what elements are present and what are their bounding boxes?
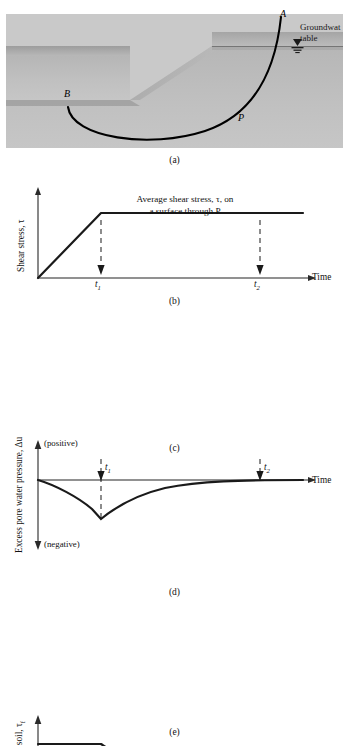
caption-b: (b) bbox=[0, 296, 349, 306]
shear-stress-chart-panel: Shear stress, τ Time Average shear stres… bbox=[0, 180, 349, 295]
label-point-p: P bbox=[238, 112, 244, 123]
groundwater-label-line2: table bbox=[300, 33, 318, 43]
tick-label-t2: t2 bbox=[254, 279, 260, 291]
y-axis-label-pore-pressure: Excess pore water pressure, Δu bbox=[14, 437, 24, 553]
y-axis-arrow-down bbox=[35, 541, 42, 550]
y-axis-arrow bbox=[35, 715, 42, 724]
caption-e: (e) bbox=[0, 727, 349, 737]
label-point-b: B bbox=[64, 88, 70, 99]
t2-marker bbox=[256, 459, 263, 481]
tick-label-t1: t1 bbox=[105, 462, 111, 474]
y-axis-arrow bbox=[35, 187, 41, 195]
annotation-line-2: a surface through P bbox=[149, 206, 220, 216]
shear-stress-curve bbox=[38, 213, 303, 278]
t2-marker bbox=[256, 220, 263, 275]
annotation-line-1: Average shear stress, τ, on bbox=[137, 194, 234, 204]
lower-ground-surface bbox=[6, 46, 130, 56]
slope-diagram-svg bbox=[0, 0, 349, 152]
y-axis-label-shear-stress: Shear stress, τ bbox=[16, 219, 26, 272]
bench-shadow bbox=[6, 100, 140, 106]
x-axis-label-time: Time bbox=[312, 475, 331, 485]
caption-a: (a) bbox=[0, 155, 349, 165]
caption-d: (d) bbox=[0, 587, 349, 597]
caption-c: (c) bbox=[0, 443, 349, 453]
t1-marker bbox=[97, 220, 104, 275]
negative-direction-label: (negative) bbox=[44, 539, 80, 549]
tick-label-t1: t1 bbox=[95, 279, 101, 291]
groundwater-table-label: Groundwat table bbox=[300, 22, 349, 43]
x-axis-label-time: Time bbox=[312, 272, 331, 282]
excess-pore-pressure-curve bbox=[38, 480, 303, 519]
groundwater-label-line1: Groundwat bbox=[300, 22, 341, 32]
average-shear-stress-annotation: Average shear stress, τ, on a surface th… bbox=[95, 193, 275, 217]
tick-label-t2: t2 bbox=[264, 462, 270, 474]
label-point-a: A bbox=[280, 8, 286, 19]
t1-marker bbox=[97, 459, 104, 517]
slope-cross-section-panel: A B P Groundwat table bbox=[0, 0, 349, 152]
